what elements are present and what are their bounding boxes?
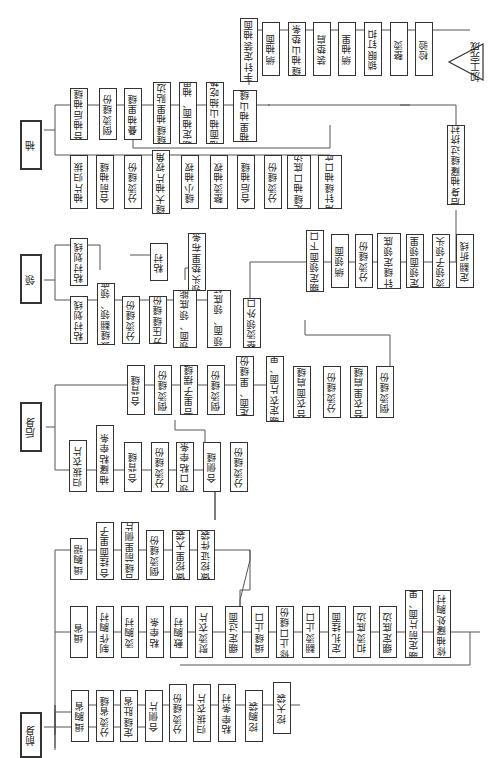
- front-a-step-6: 归拔衣片: [193, 684, 211, 742]
- front-b-step-1: 缉省: [70, 606, 88, 658]
- front-b-step-4: 粘牵条: [146, 606, 164, 658]
- collar-a-step-7: 整烫领外口: [243, 298, 261, 348]
- front-b-step-15: 修袖窿处胸衬: [433, 590, 451, 658]
- back-a-step-6: 合侧缝: [203, 442, 221, 492]
- end-label: 加工完成: [468, 42, 483, 82]
- back-a-step-2: 袖窿粘牵条: [96, 425, 114, 492]
- front-b-step-14: 绷定前片面、里: [405, 590, 423, 658]
- front-a-step-1: 缉胸省: [71, 690, 89, 742]
- collar-c-step-2: 领头垫里布条: [188, 233, 206, 291]
- sleeve-b-step-4: 缝缝袖里贴边: [153, 82, 171, 144]
- assembly-step-4: 缝袖山垫条: [288, 22, 306, 76]
- back-a-step-5: 领口粘牵条: [176, 442, 194, 492]
- front-a-step-5: 分烫缝份: [169, 684, 187, 742]
- sleeve-b-step-5: 绷定袖面、袖里: [179, 82, 197, 144]
- front-b-step-12: 扣烫底边: [353, 606, 371, 658]
- sleeve-a-step-8: 分烫缝份: [264, 155, 282, 209]
- back-b-step-9: 合衣里肩缝: [350, 366, 368, 418]
- sleeve-a-step-7: 合后袖缝: [237, 155, 255, 209]
- front-b-step-13: 绷定底边: [379, 606, 397, 658]
- front-c-step-4: 倒烫缝份: [146, 530, 164, 580]
- back-b-step-5: 定面、里缝份: [236, 356, 254, 416]
- collar-d-step-2: 绱领面: [331, 234, 349, 288]
- sleeve-a-step-2: 合前袖缝: [96, 155, 114, 209]
- back-a-step-7: 分烫缝份: [230, 442, 248, 492]
- front-b-step-7: 绷定过面: [225, 606, 243, 658]
- front-a-step-2: 分烫省缝: [96, 690, 114, 742]
- assembly-step-5: 装垫肩: [313, 22, 331, 76]
- front-b-step-2: 制作胸衬: [96, 606, 114, 658]
- back-a-step-1: 归拔衣片: [69, 440, 87, 492]
- sleeve-a-step-4: 缝大袖片衩角: [152, 150, 170, 214]
- front-c-step-2: 合挂面里子: [96, 522, 114, 580]
- back-b-step-2: 倒烫缝份: [154, 365, 172, 415]
- front-b-step-8: 缉缝止口: [251, 606, 269, 658]
- sleeve-b-step-7: 烫袖里袖山缝份: [233, 90, 257, 142]
- collar-d-step-3: 分烫缝份: [355, 234, 373, 288]
- sleeve-a-step-10: 三角针缝袖口底边: [318, 155, 342, 209]
- back-a-step-4: 分烫缝份: [151, 442, 169, 492]
- sleeve-a-step-9: 定缝袖口底边: [287, 155, 311, 209]
- back-b-step-7: 合衣面肩缝: [293, 366, 311, 418]
- back-b-step-3: 合里子摆缝: [180, 365, 198, 415]
- back-b-step-1: 合背缝: [127, 365, 145, 415]
- section-head-collar: 领: [20, 254, 42, 304]
- collar-b-step-1: 粘衬划线: [70, 238, 88, 286]
- back-b-step-9b: 倒烫缝份: [376, 366, 394, 418]
- sleeve-b-step-1: 合袖后袖缝: [70, 88, 88, 140]
- collar-d-step-7: 定翻折线: [456, 234, 474, 288]
- front-b-step-9: 修止口缝份: [276, 606, 294, 658]
- sleeve-b-step-6: 袖面袖山抽吃势: [206, 82, 224, 144]
- collar-a-step-4: 分压缝缝份: [149, 296, 167, 344]
- front-a-step-4: 合侧片: [145, 690, 163, 742]
- front-c-step-1: 缉胸褶: [70, 538, 88, 580]
- front-a-step-8: 挖胸袋: [245, 690, 263, 742]
- collar-d-step-1: 绷定领面下口: [306, 230, 324, 292]
- front-a-step-9: 挖大袋: [273, 682, 291, 734]
- collar-a-step-5: 拼缝领面、领底能外口: [173, 290, 197, 348]
- assembly-step-8: 整烫: [390, 22, 408, 76]
- back-b-step-6: 绷定衣片面、里: [266, 356, 284, 422]
- front-c-step-3: 合缝前里侧片: [121, 522, 139, 580]
- collar-d-step-6: 烫领子领头: [432, 234, 450, 288]
- assembly-step-3: 绱袖面: [262, 22, 280, 76]
- assembly-step-6: 绱袖里: [338, 22, 356, 76]
- back-b-step-4: 倒烫缝份: [207, 365, 225, 415]
- assembly-step-1: 后身袖窿缝过挤衬: [447, 125, 465, 205]
- sleeve-b-step-2: 倒烫缝份: [99, 88, 117, 140]
- assembly-step-9: 检验: [415, 22, 433, 76]
- sleeve-a-step-6: 整烫袖衩: [210, 155, 228, 209]
- front-a-step-7: 粘牵条衬: [218, 684, 236, 742]
- flowchart-canvas: 前身 后身 领 袖 缉胸省 分烫省缝 定缝肚省 合侧片 分烫缝份 归拔衣片 粘牵…: [0, 0, 489, 758]
- collar-a-step-6: 合缝领面、领底领头: [207, 290, 231, 348]
- front-b-step-11: 定扎挂面: [328, 606, 346, 658]
- back-b-step-8: 分烫缝份: [323, 366, 341, 418]
- front-c-step-5: 做挖里大袋: [172, 530, 190, 580]
- front-c-step-6: 做挖证件袋: [197, 530, 215, 580]
- section-head-back: 后身: [20, 402, 42, 452]
- sleeve-a-step-1: 袖片归拔: [70, 155, 88, 209]
- back-a-step-3: 合背缝: [124, 442, 142, 492]
- collar-a-step-2: 拔缝翻领、领座: [97, 283, 115, 345]
- section-head-sleeve: 袖: [20, 120, 42, 170]
- collar-d-step-5: 定领面领里: [406, 234, 424, 288]
- collar-a-step-3: 分烫缝份: [122, 296, 140, 344]
- front-a-step-3: 定缝肚省: [120, 690, 138, 742]
- sleeve-a-step-5: 缝小袖衩: [181, 155, 199, 209]
- front-b-step-3: 烫胸衬: [121, 606, 139, 658]
- front-b-step-10: 翻烫止口: [302, 606, 320, 658]
- front-b-step-6: 熨烫衣片: [195, 606, 213, 658]
- assembly-step-2: 手针定装袖面: [240, 18, 258, 82]
- section-head-front: 前身: [20, 712, 42, 758]
- sleeve-a-step-3: 分烫缝份: [124, 155, 142, 209]
- collar-a-step-1: 粘衬划线: [70, 296, 88, 344]
- sleeve-b-step-3: 叠袖里缝: [124, 88, 142, 140]
- assembly-step-7: 锁眼钉扣: [364, 22, 382, 76]
- collar-d-step-4: 三角针缝定领底下口: [377, 233, 401, 289]
- front-b-step-5: 敷胸衬: [170, 606, 188, 658]
- collar-c-step-1: 粘衬: [150, 243, 168, 281]
